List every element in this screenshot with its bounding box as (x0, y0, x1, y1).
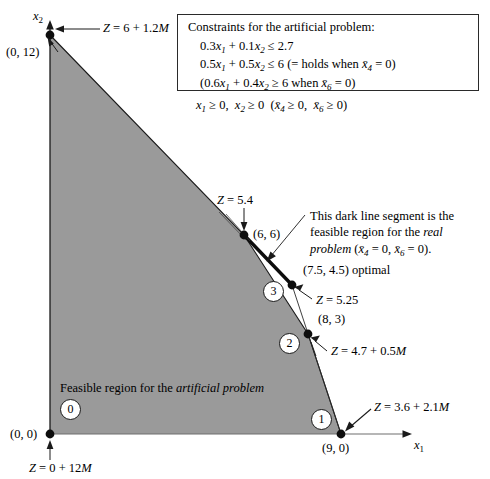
constraints-box-title: Constraints for the artificial problem: (188, 20, 470, 35)
constraint-line-2: 0.5x1 + 0.5x2 ≤ 6 (= holds when x̄4 = 0) (200, 56, 470, 74)
y-axis-arrowhead (46, 20, 54, 30)
vertex-node-1[interactable]: 1 (311, 409, 332, 430)
vertex-dot-0-0 (46, 430, 55, 439)
x-axis-label: x1 (414, 437, 424, 455)
vertex-dot-7p5-4p5 (288, 281, 297, 290)
coord-label-7p5-4p5: (7.5, 4.5) optimal (303, 263, 390, 278)
y-axis-label: x2 (33, 8, 43, 26)
constraint-line-1: 0.3x1 + 0.1x2 ≤ 2.7 (200, 38, 470, 56)
coord-label-0-0: (0, 0) (10, 427, 37, 442)
region-caption: Feasible region for the artificial probl… (60, 381, 264, 396)
vertex-dot-6-6 (240, 231, 249, 240)
vertex-node-2[interactable]: 2 (279, 333, 300, 354)
leader-arrow-z-6-6 (241, 208, 248, 231)
z-label-6-6: Z = 5.4 (217, 193, 253, 208)
coord-label-6-6: (6, 6) (253, 227, 280, 242)
vertex-dot-9-0 (337, 430, 346, 439)
vertex-dot-0-12 (46, 31, 55, 40)
z-label-0-0: Z = 0 + 12M (29, 461, 92, 476)
z-label-8-3: Z = 4.7 + 0.5M (331, 344, 406, 359)
vertex-dot-8-3 (304, 330, 313, 339)
shaded-feasible-region (50, 35, 341, 434)
vertex-node-0[interactable]: 0 (60, 399, 81, 420)
dark-segment-note: This dark line segment is the feasible r… (310, 208, 486, 259)
dark-segment-note-line3: (x̄4 = 0, x̄6 = 0). (354, 242, 431, 256)
z-label-9-0: Z = 3.6 + 2.1M (374, 400, 449, 415)
z-label-7p5-4p5: Z = 5.25 (316, 293, 358, 308)
figure-canvas: x2 x1 Constraints for the artificial pro… (0, 0, 490, 479)
leader-arrow-z-7p5 (294, 284, 312, 299)
coord-label-9-0: (9, 0) (322, 441, 349, 456)
constraints-box: Constraints for the artificial problem: … (177, 14, 479, 91)
leader-arrow-z-0-12 (55, 26, 100, 33)
x-axis-arrowhead (403, 430, 413, 438)
coord-label-0-12: (0, 12) (6, 45, 39, 60)
vertex-node-3[interactable]: 3 (263, 281, 284, 302)
leader-arrow-z-9-0 (345, 409, 371, 432)
coord-label-8-3: (8, 3) (318, 312, 345, 327)
constraint-line-3: (0.6x1 + 0.4x2 ≥ 6 when x̄6 = 0) (200, 75, 470, 93)
constraint-nonnegativity: x1 ≥ 0, x2 ≥ 0 (x̄4 ≥ 0, x̄6 ≥ 0) (196, 97, 470, 115)
leader-arrow-z-0-0 (47, 440, 54, 460)
z-label-0-12: Z = 6 + 1.2M (103, 21, 169, 36)
